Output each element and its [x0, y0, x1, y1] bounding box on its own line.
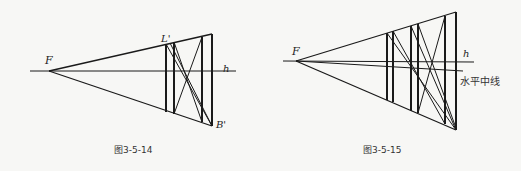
perspective-diagrams: F h L' B' 图3-5-14 F h 水平中线 图3-5-15	[0, 0, 521, 171]
figure-caption: 图3-5-15	[363, 145, 401, 155]
figure-caption: 图3-5-14	[114, 145, 153, 155]
horizon-label-h: h	[463, 48, 469, 59]
vanishing-point-label-f: F	[291, 45, 300, 58]
diagram-stage: F h L' B' 图3-5-14 F h 水平中线 图3-5-15	[0, 0, 521, 171]
point-label-b: B'	[215, 119, 226, 130]
horizon-label-h: h	[223, 63, 229, 74]
point-label-l: L'	[160, 33, 170, 44]
figure-3-5-15	[283, 12, 474, 130]
vanishing-point-label-f: F	[44, 54, 53, 67]
figure-3-5-14	[30, 34, 236, 126]
midline-label: 水平中线	[460, 75, 500, 87]
